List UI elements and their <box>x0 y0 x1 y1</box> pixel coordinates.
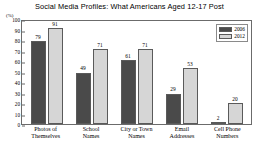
y-axis-tick-label: 90 <box>15 29 20 34</box>
legend-item-2012: 2012 <box>219 34 245 40</box>
bar-2012 <box>48 28 63 124</box>
legend-label-2006: 2006 <box>234 27 245 32</box>
bar-value-label: 2 <box>217 116 220 121</box>
y-axis-tick-label: 10 <box>15 113 20 118</box>
chart-title: Social Media Profiles: What Americans Ag… <box>0 2 259 11</box>
y-axis-tick-label: 20 <box>15 102 20 107</box>
bar-2006 <box>166 94 181 124</box>
y-axis-tick-label: 50 <box>15 71 20 76</box>
legend-swatch-2006 <box>219 27 232 33</box>
bar-2012 <box>93 49 108 124</box>
y-axis-tick-label: 60 <box>15 60 20 65</box>
x-axis-labels: Photos ofThemselvesSchoolNamesCity or To… <box>21 126 252 151</box>
bar-value-label: 71 <box>97 43 102 48</box>
y-axis-tick-label: 0 <box>17 123 20 128</box>
chart-figure: Social Media Profiles: What Americans Ag… <box>0 0 259 153</box>
bar-value-label: 20 <box>232 97 237 102</box>
bar-slot: 29 <box>166 21 181 124</box>
x-axis-label: EmailAddresses <box>159 126 204 151</box>
bar-group: 7991 <box>24 21 69 124</box>
y-axis-tick-label: 30 <box>15 92 20 97</box>
chart-legend: 2006 2012 <box>216 24 248 42</box>
x-axis-label: SchoolNames <box>68 126 113 151</box>
legend-label-2012: 2012 <box>234 34 245 39</box>
x-axis-label: Photos ofThemselves <box>23 126 68 151</box>
bar-slot: 91 <box>48 21 63 124</box>
bar-slot: 49 <box>76 21 91 124</box>
bar-slot: 53 <box>183 21 198 124</box>
legend-swatch-2012 <box>219 34 232 40</box>
bar-slot: 61 <box>121 21 136 124</box>
y-axis-tick-label: 80 <box>15 39 20 44</box>
bar-value-label: 71 <box>142 43 147 48</box>
bar-slot: 71 <box>93 21 108 124</box>
bar-group: 4971 <box>69 21 114 124</box>
bar-2012 <box>138 49 153 124</box>
plot-area: 0102030405060708090100 79914971617129532… <box>21 20 252 125</box>
bar-2006 <box>76 73 91 124</box>
y-axis-tick-label: 40 <box>15 81 20 86</box>
legend-item-2006: 2006 <box>219 27 245 33</box>
bar-2006 <box>121 60 136 124</box>
bar-slot: 79 <box>31 21 46 124</box>
y-axis-tick-label: 100 <box>12 18 20 23</box>
y-axis-tick-label: 70 <box>15 50 20 55</box>
bar-value-label: 53 <box>187 62 192 67</box>
x-axis-label: City or TownNames <box>114 126 159 151</box>
bar-2006 <box>211 122 226 124</box>
bar-group: 2953 <box>159 21 204 124</box>
bar-value-label: 91 <box>52 22 57 27</box>
bar-value-label: 49 <box>80 66 85 71</box>
bar-group: 6171 <box>114 21 159 124</box>
bar-2006 <box>31 41 46 124</box>
bar-2012 <box>228 103 243 124</box>
bar-value-label: 29 <box>170 87 175 92</box>
bar-2012 <box>183 68 198 124</box>
x-axis-label: Cell PhoneNumbers <box>205 126 250 151</box>
bar-value-label: 61 <box>125 54 130 59</box>
bar-value-label: 79 <box>35 35 40 40</box>
bar-slot: 71 <box>138 21 153 124</box>
